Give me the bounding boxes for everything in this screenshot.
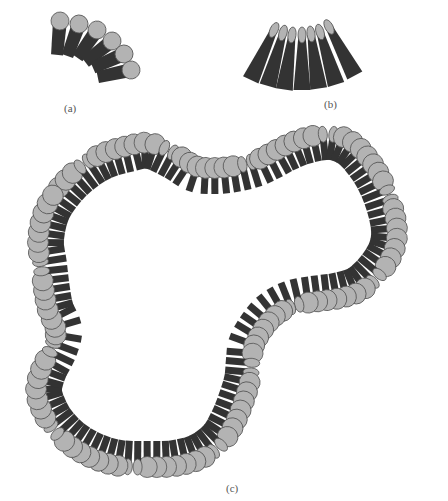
lipid-molecule: [133, 441, 142, 475]
panel-c-lipid-monolayer-loop: [0, 0, 448, 501]
panel-a-label: (a): [64, 102, 76, 114]
lipid-curvature-figure: (a) (b) (c): [0, 0, 448, 501]
panel-b-label: (b): [324, 98, 337, 110]
lipid-head: [133, 459, 142, 475]
panel-c-label: (c): [226, 482, 238, 494]
